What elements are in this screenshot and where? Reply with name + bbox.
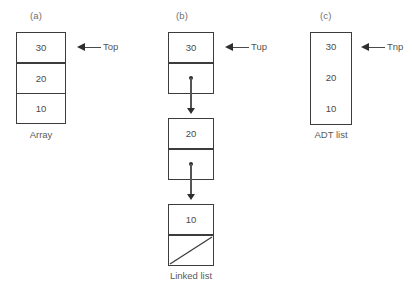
linked-list-caption: Linked list [151, 270, 231, 281]
array-cell-1: 20 [16, 63, 66, 94]
array-top-arrowhead-icon [77, 43, 85, 51]
linked-connector-0-arrowhead-icon [187, 108, 195, 114]
linked-top-label: Tup [251, 41, 267, 52]
array-top-leader-line [85, 47, 101, 48]
linked-connector-1 [190, 164, 191, 196]
linked-node-2-null-cell [168, 235, 214, 266]
adt-list-value-2: 10 [310, 103, 352, 114]
linked-top-leader-line [233, 47, 249, 48]
adt-list-caption: ADT list [300, 129, 362, 140]
adt-list-value-1: 20 [310, 72, 352, 83]
linked-node-1-value-cell: 20 [168, 118, 214, 149]
array-cell-0-value: 30 [36, 42, 47, 53]
adt-list-value-0: 30 [310, 41, 352, 52]
linked-connector-1-arrowhead-icon [187, 194, 195, 200]
array-caption: Array [16, 129, 66, 140]
array-cell-0: 30 [16, 32, 66, 63]
array-cell-1-value: 20 [36, 73, 47, 84]
array-top-label: Top [103, 41, 118, 52]
adt-top-arrowhead-icon [361, 43, 369, 51]
linked-node-2-value-cell: 10 [168, 204, 214, 235]
panel-letter-a: (a) [30, 10, 42, 21]
adt-top-label: Tnp [387, 41, 403, 52]
panel-letter-c: (c) [320, 10, 332, 21]
panel-letter-b: (b) [176, 10, 188, 21]
array-cell-2: 10 [16, 93, 66, 124]
linked-node-0-value-cell: 30 [168, 32, 214, 63]
array-cell-2-value: 10 [36, 103, 47, 114]
linked-connector-0 [190, 78, 191, 110]
adt-top-leader-line [369, 47, 385, 48]
figure-canvas: (a) 30 20 10 Top Array (b) 30 Tup 20 10 … [0, 0, 412, 302]
linked-node-0-value: 30 [186, 42, 197, 53]
linked-node-2-value: 10 [186, 214, 197, 225]
linked-node-1-value: 20 [186, 128, 197, 139]
linked-top-arrowhead-icon [225, 43, 233, 51]
